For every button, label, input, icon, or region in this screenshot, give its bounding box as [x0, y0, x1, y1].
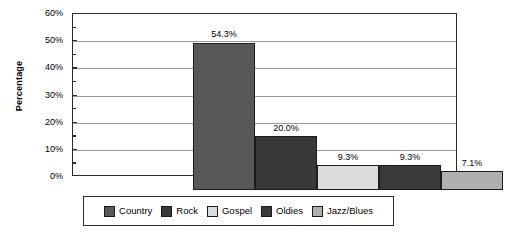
legend-item-label: Rock: [176, 205, 198, 217]
legend-item[interactable]: Country: [104, 205, 152, 217]
y-axis-minor-tick-mark: [72, 81, 76, 82]
chart-legend: CountryRockGospelOldiesJazz/Blues: [83, 196, 394, 226]
y-axis-tick-label: 60%: [1, 7, 63, 19]
y-axis-tick-mark: [72, 67, 77, 68]
bar: [441, 171, 503, 190]
bar-value-label: 7.1%: [441, 158, 503, 169]
legend-item-label: Oldies: [276, 205, 303, 217]
y-axis-tick-mark: [72, 40, 77, 41]
bar: [193, 43, 255, 191]
plot-area: 54.3%20.0%9.3%9.3%7.1%: [72, 13, 457, 176]
y-axis-tick-label: 0%: [1, 170, 63, 182]
bar-value-label: 9.3%: [379, 152, 441, 163]
legend-item-label: Jazz/Blues: [327, 205, 373, 217]
y-axis-minor-tick-mark: [72, 27, 76, 28]
y-axis-minor-tick-mark: [72, 162, 76, 163]
bar: [317, 165, 379, 190]
y-axis-minor-tick-mark: [72, 135, 76, 136]
y-axis-tick-label: 10%: [1, 143, 63, 155]
legend-swatch-icon: [104, 206, 115, 217]
legend-swatch-icon: [161, 206, 172, 217]
bar: [379, 165, 441, 190]
legend-swatch-icon: [207, 206, 218, 217]
bar-value-label: 9.3%: [317, 152, 379, 163]
legend-swatch-icon: [261, 206, 272, 217]
legend-item[interactable]: Rock: [161, 205, 198, 217]
y-axis-tick-label: 30%: [1, 89, 63, 101]
y-axis-tick-mark: [72, 122, 77, 123]
y-axis-tick-label: 40%: [1, 61, 63, 73]
legend-item[interactable]: Oldies: [261, 205, 303, 217]
y-axis-tick-mark: [72, 149, 77, 150]
y-axis-minor-tick-mark: [72, 108, 76, 109]
bar: [255, 136, 317, 190]
legend-item-label: Gospel: [222, 205, 252, 217]
y-axis-tick-labels: 0%10%20%30%40%50%60%: [0, 13, 72, 176]
y-axis-tick-label: 50%: [1, 34, 63, 46]
y-axis-tick-mark: [72, 95, 77, 96]
bar-value-label: 54.3%: [193, 29, 255, 40]
y-axis-minor-tick-mark: [72, 54, 76, 55]
bar-value-label: 20.0%: [255, 123, 317, 134]
legend-item-label: Country: [119, 205, 152, 217]
y-axis-tick-label: 20%: [1, 116, 63, 128]
legend-item[interactable]: Gospel: [207, 205, 252, 217]
bar-series: 54.3%20.0%9.3%9.3%7.1%: [145, 27, 507, 190]
legend-swatch-icon: [312, 206, 323, 217]
legend-item[interactable]: Jazz/Blues: [312, 205, 373, 217]
